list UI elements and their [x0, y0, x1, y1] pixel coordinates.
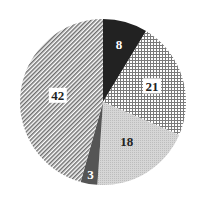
pie-label-42: 42 [51, 88, 64, 103]
pie-chart: 82118342 [0, 0, 199, 200]
pie-label-18: 18 [120, 134, 134, 149]
pie-slices [20, 19, 186, 185]
pie-label-8: 8 [116, 37, 123, 52]
pie-chart-svg: 82118342 [0, 0, 199, 200]
pie-label-3: 3 [87, 167, 94, 182]
pie-label-21: 21 [146, 79, 159, 94]
